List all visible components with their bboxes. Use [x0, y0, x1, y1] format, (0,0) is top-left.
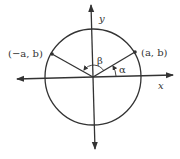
x-axis: [93, 75, 173, 77]
y-axis-negative: [93, 77, 95, 149]
y-axis-label: y: [98, 13, 105, 24]
radius-left: [52, 54, 93, 77]
alpha-arc: [113, 66, 116, 76]
beta-label: β: [97, 55, 103, 66]
x-axis-negative: [17, 77, 93, 79]
right-point-marker: [133, 50, 137, 54]
x-axis-label: x: [158, 80, 164, 91]
alpha-label: α: [119, 64, 126, 75]
y-axis: [91, 5, 93, 77]
unit-circle-diagram: x y (a, b) (−a, b) α β: [0, 0, 180, 159]
left-point-marker: [50, 52, 54, 56]
left-point-label: (−a, b): [8, 48, 43, 59]
right-point-label: (a, b): [141, 47, 168, 58]
